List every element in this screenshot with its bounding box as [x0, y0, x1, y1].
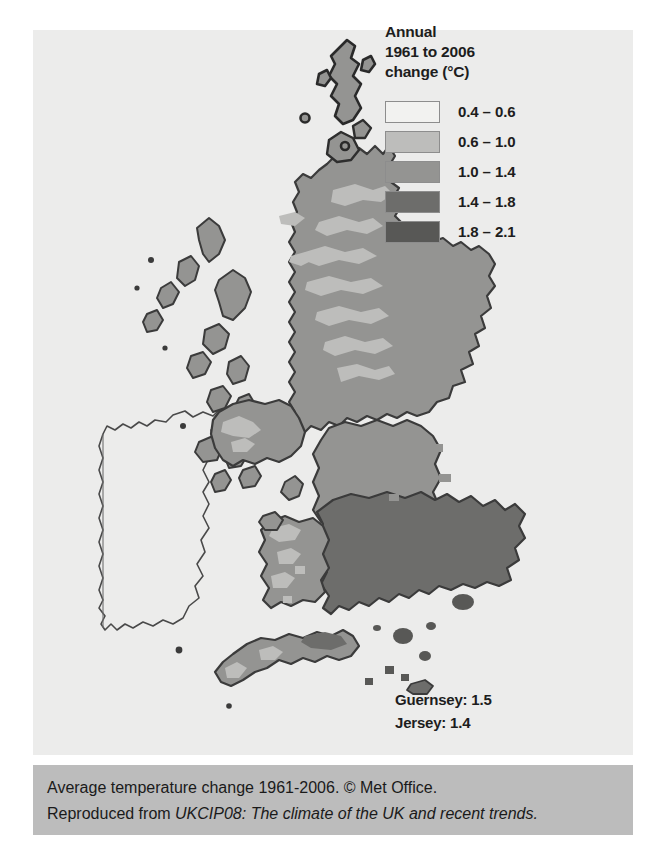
legend-entry-label: 0.6 – 1.0 — [458, 133, 515, 150]
legend-entry: 1.0 – 1.4 — [385, 158, 590, 185]
caption-band: Average temperature change 1961-2006. © … — [33, 765, 633, 835]
legend-entry: 1.8 – 2.1 — [385, 218, 590, 245]
island-value-annotations: Guernsey: 1.5 Jersey: 1.4 — [395, 688, 492, 734]
legend-entry-label: 1.8 – 2.1 — [458, 223, 515, 240]
caption-source-prefix: Reproduced from — [47, 805, 175, 822]
legend-entry: 0.6 – 1.0 — [385, 128, 590, 155]
swatch-0-4-0-6 — [385, 101, 440, 123]
swatch-1-8-2-1 — [385, 221, 440, 243]
legend-entry-label: 0.4 – 0.6 — [458, 103, 515, 120]
figure-container: Annual 1961 to 2006 change (°C) 0.4 – 0.… — [0, 0, 666, 858]
legend-title: Annual 1961 to 2006 change (°C) — [385, 22, 590, 82]
legend-entry: 0.4 – 0.6 — [385, 98, 590, 125]
legend-entry-list: 0.4 – 0.6 0.6 – 1.0 1.0 – 1.4 1.4 – 1.8 … — [385, 98, 590, 245]
caption-line-1: Average temperature change 1961-2006. © … — [47, 775, 633, 801]
swatch-1-4-1-8 — [385, 191, 440, 213]
region-central-southern-england — [317, 492, 525, 614]
legend-entry-label: 1.0 – 1.4 — [458, 163, 515, 180]
swatch-0-6-1-0 — [385, 131, 440, 153]
legend-entry-label: 1.4 – 1.8 — [458, 193, 515, 210]
england-dark-speckle-patches — [365, 594, 474, 685]
jersey-value: Jersey: 1.4 — [395, 711, 492, 734]
caption-line-2: Reproduced from UKCIP08: The climate of … — [47, 801, 633, 827]
legend-entry: 1.4 – 1.8 — [385, 188, 590, 215]
guernsey-value: Guernsey: 1.5 — [395, 688, 492, 711]
caption-publication-title: UKCIP08: The climate of the UK and recen… — [175, 805, 538, 822]
swatch-1-0-1-4 — [385, 161, 440, 183]
legend: Annual 1961 to 2006 change (°C) 0.4 – 0.… — [385, 22, 590, 248]
